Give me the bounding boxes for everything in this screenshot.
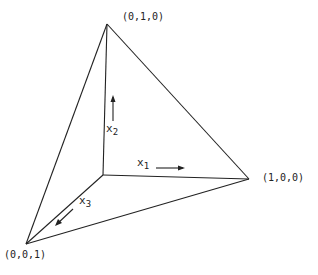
- vertex-label-bottom-left: (0,0,1): [4, 249, 46, 260]
- vertex-label-right: (1,0,0): [262, 172, 304, 183]
- axis-label-x2: x2: [106, 122, 118, 135]
- axis-label-x1: x1: [137, 156, 149, 169]
- axis-label-x3: x3: [79, 194, 91, 207]
- tetrahedron-lines: [0, 0, 318, 275]
- simplex-diagram: (0,1,0) (1,0,0) (0,0,1) x2 x1 x3: [0, 0, 318, 275]
- vertex-label-top: (0,1,0): [122, 11, 164, 22]
